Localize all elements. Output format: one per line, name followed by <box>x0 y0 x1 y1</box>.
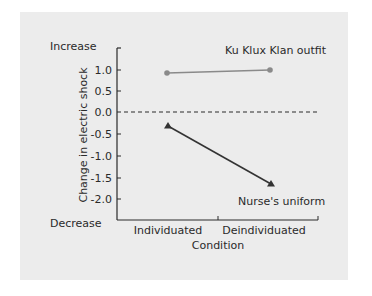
y-axis-label: Change in electric shock <box>77 67 90 203</box>
x-axis-label: Condition <box>192 239 245 252</box>
x-tick-label: Deindividuated <box>222 224 306 237</box>
y-tick-label: -0.5 <box>91 128 112 141</box>
data-point-circle <box>164 70 170 76</box>
data-point-triangle <box>164 122 172 129</box>
x-tick-label: Individuated <box>134 224 203 237</box>
y-tick-label: -1.5 <box>91 172 112 185</box>
line-chart: Increase Decrease Change in electric sho… <box>0 0 372 296</box>
increase-label: Increase <box>50 40 97 53</box>
series-label-nurse: Nurse's uniform <box>238 195 325 208</box>
decrease-label: Decrease <box>50 217 102 230</box>
y-tick-label: 0.0 <box>95 106 113 119</box>
y-tick-label: 0.5 <box>95 85 113 98</box>
data-point-circle <box>267 67 273 73</box>
y-tick-label: -2.0 <box>91 193 112 206</box>
y-tick-label: -1.0 <box>91 150 112 163</box>
series-label-kkk: Ku Klux Klan outfit <box>225 44 327 57</box>
y-tick-label: 1.0 <box>95 64 113 77</box>
series-kkk-outfit: Ku Klux Klan outfit <box>164 44 327 76</box>
series-nurse-uniform: Nurse's uniform <box>164 122 325 208</box>
